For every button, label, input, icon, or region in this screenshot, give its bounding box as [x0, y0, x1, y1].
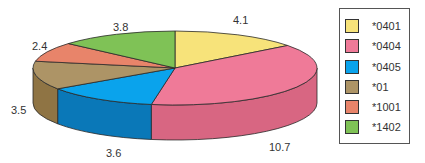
legend-swatch-0405	[345, 60, 359, 74]
legend-swatch-0401	[345, 19, 359, 33]
legend-label-0404: *0404	[372, 40, 401, 52]
legend-item-0401: *0401	[345, 18, 401, 34]
chart-legend: *0401 *0404 *0405 *01 *1001 *1402	[339, 8, 410, 144]
legend-label-01: *01	[372, 81, 389, 93]
legend-label-0405: *0405	[372, 61, 401, 73]
data-label-1402: 3.8	[113, 21, 128, 33]
data-label-0405: 3.6	[106, 147, 121, 159]
legend-swatch-1402	[345, 120, 359, 134]
data-label-1001: 2.4	[32, 40, 47, 52]
legend-swatch-1001	[345, 100, 359, 114]
legend-item-0404: *0404	[345, 38, 401, 54]
legend-label-1402: *1402	[372, 121, 401, 133]
legend-label-1001: *1001	[372, 101, 401, 113]
legend-label-0401: *0401	[372, 20, 401, 32]
legend-item-0405: *0405	[345, 59, 401, 75]
legend-swatch-0404	[345, 39, 359, 53]
data-label-0404: 10.7	[269, 141, 290, 153]
pie-slices	[33, 31, 317, 105]
legend-item-1001: *1001	[345, 99, 401, 115]
data-label-01: 3.5	[11, 104, 26, 116]
data-label-0401: 4.1	[233, 14, 248, 26]
legend-item-1402: *1402	[345, 119, 401, 135]
legend-item-01: *01	[345, 79, 389, 95]
legend-swatch-01	[345, 80, 359, 94]
